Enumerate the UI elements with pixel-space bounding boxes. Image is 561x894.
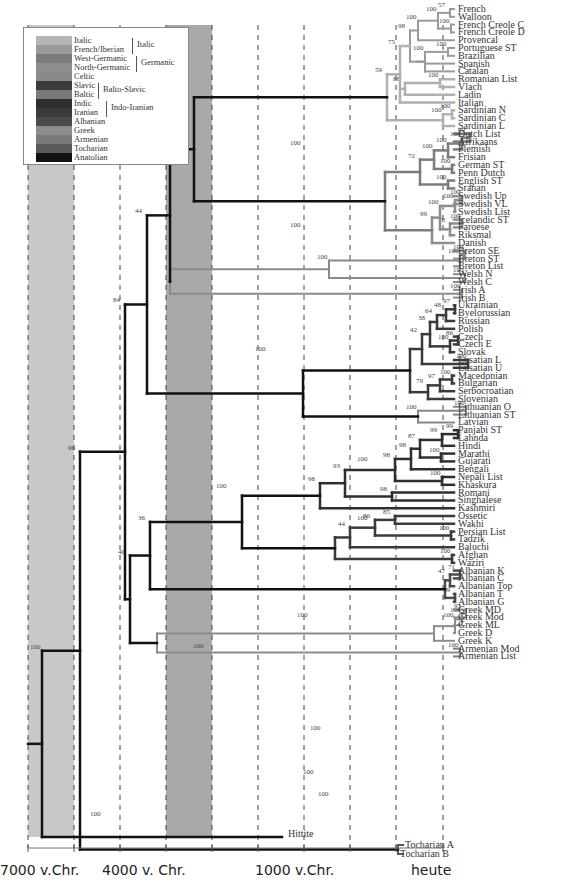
bootstrap-value: 100 [436, 173, 447, 181]
axis-tick-label: 7000 v.Chr. [0, 862, 79, 878]
bootstrap-value: 44 [135, 207, 143, 215]
bootstrap-value: 100 [303, 768, 314, 776]
bootstrap-value: 100 [318, 790, 329, 798]
bootstrap-value: 38 [418, 314, 426, 322]
bootstrap-value: 100 [438, 333, 449, 341]
axis-tick-label: heute [411, 862, 451, 878]
bootstrap-value: 59 [375, 66, 383, 74]
bootstrap-value: 98 [380, 485, 388, 493]
leaf-label: Hittite [288, 828, 314, 839]
bootstrap-value: 97 [443, 297, 451, 305]
legend-swatch [36, 81, 72, 90]
bootstrap-value: 42 [410, 326, 418, 334]
bootstrap-value: 100 [297, 611, 308, 619]
bootstrap-value: 93 [333, 462, 341, 470]
bootstrap-value: 36 [138, 514, 146, 522]
bootstrap-value: 100 [431, 106, 442, 114]
bootstrap-value: 97 [428, 372, 436, 380]
bootstrap-value: 100 [310, 724, 321, 732]
bootstrap-value: 100 [428, 198, 439, 206]
bootstrap-value: 100 [357, 455, 368, 463]
bootstrap-value: 100 [440, 157, 451, 165]
bootstrap-value: 100 [440, 368, 451, 376]
leaf-labels: FrenchWalloonFrench Creole CFrench Creol… [288, 3, 525, 859]
bootstrap-value: 100 [440, 547, 451, 555]
bootstrap-value: 100 [443, 192, 454, 200]
bootstrap-value: 98 [399, 441, 407, 449]
legend-group: Italic [132, 38, 154, 54]
bootstrap-value: 75 [388, 38, 396, 46]
bootstrap-value: 100 [426, 5, 437, 13]
bootstrap-value: 100 [30, 643, 41, 651]
legend-group: Germanic [136, 56, 175, 72]
bootstrap-value: 100 [290, 139, 301, 147]
bootstrap-value: 79 [416, 377, 424, 385]
x-axis [28, 844, 443, 852]
bootstrap-value: 96 [68, 444, 76, 452]
bootstrap-value: 98 [308, 475, 316, 483]
bootstrap-value: 47 [438, 567, 446, 575]
bootstrap-value: 86 [363, 512, 371, 520]
legend-swatch [36, 117, 72, 126]
bootstrap-value: 100 [90, 810, 101, 818]
bootstrap-value: 100 [406, 403, 417, 411]
legend-swatch [36, 126, 72, 135]
legend-swatch [36, 72, 72, 81]
bootstrap-value: 100 [429, 446, 440, 454]
legend-swatch [36, 135, 72, 144]
bootstrap-value: 100 [440, 102, 451, 110]
legend-swatch [36, 45, 72, 54]
bootstrap-value: 71 [448, 563, 456, 571]
legend-swatch [36, 36, 72, 45]
bootstrap-value: 100 [428, 71, 439, 79]
bootstrap-value: 72 [408, 152, 416, 160]
legend-swatch [36, 99, 72, 108]
leaf-label: Armenian List [458, 650, 516, 661]
bootstrap-value: 100 [216, 482, 227, 490]
legend-swatch [36, 108, 72, 117]
bootstrap-value: 100 [439, 17, 450, 25]
bootstrap-value: 64 [425, 307, 433, 315]
legend-group: Balto-Slavic [98, 83, 146, 99]
bootstrap-value: 98 [383, 451, 391, 459]
bootstrap-value: 84 [113, 296, 121, 304]
bootstrap-value: 98 [398, 22, 406, 30]
bootstrap-value: 99 [446, 422, 454, 430]
bootstrap-value: 100 [406, 13, 417, 21]
bootstrap-value: 44 [338, 520, 346, 528]
bootstrap-value: 100 [413, 44, 424, 52]
leaf-label: Tocharian B [400, 848, 449, 859]
bootstrap-value: 100 [436, 136, 447, 144]
bootstrap-value: 100 [317, 253, 328, 261]
bootstrap-value: 57 [438, 1, 446, 9]
bootstrap-value: 100 [193, 642, 204, 650]
bootstrap-value: 99 [430, 426, 438, 434]
legend-swatch [36, 90, 72, 99]
bootstrap-value: 100 [290, 221, 301, 229]
bootstrap-value: 100 [439, 524, 450, 532]
bootstrap-value: 100 [255, 345, 266, 353]
legend-swatch [36, 153, 72, 162]
legend-swatch [36, 63, 72, 72]
legend-group: Indo-Iranian [106, 101, 153, 117]
axis-tick-label: 1000 v.Chr. [255, 862, 334, 878]
bootstrap-value: 100 [436, 40, 447, 48]
bootstrap-value: 100 [443, 611, 454, 619]
legend-label: Anatolian [74, 153, 108, 162]
bootstrap-value: 99 [420, 210, 428, 218]
bootstrap-value: 87 [408, 432, 416, 440]
legend-swatch [36, 54, 72, 63]
axis-tick-label: 4000 v. Chr. [102, 862, 186, 878]
bootstrap-value: 100 [430, 469, 441, 477]
legend: ItalicFrench/IberianWest-GermanicNorth-G… [23, 27, 189, 165]
bootstrap-value: 100 [422, 142, 433, 150]
legend-swatch [36, 144, 72, 153]
bootstrap-value: 85 [383, 508, 391, 516]
bootstrap-value: 48 [434, 301, 442, 309]
